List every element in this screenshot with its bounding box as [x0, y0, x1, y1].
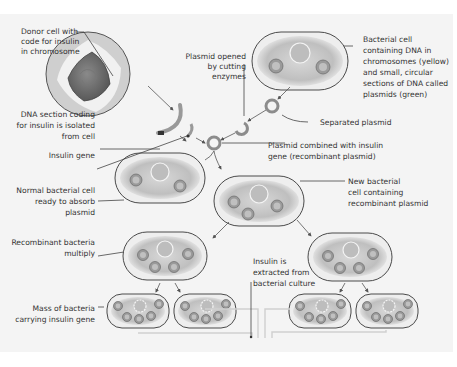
label-new-cell: New bacterialcell containingrecombinant …: [348, 177, 428, 208]
normal-bacterial-cell: [115, 153, 205, 203]
label-recombinant-multiply: Recombinant bacteriamultiply: [11, 238, 95, 258]
svg-text:New bacterialcell containingre: New bacterialcell containingrecombinant …: [348, 177, 428, 208]
label-plasmid-combined: Plasmid combined with insulingene (recom…: [268, 141, 383, 161]
label-donor-cell: Donor cell withcode for insulinin chromo…: [21, 27, 80, 56]
label-bacterial-cell: Bacterial cellcontaining DNA inchromosom…: [363, 35, 449, 99]
dna-section: [158, 105, 181, 133]
svg-text:Insulin gene: Insulin gene: [49, 151, 96, 160]
label-plasmid-opened: Plasmid openedby cuttingenzymes: [186, 52, 247, 81]
opened-plasmid: [236, 123, 247, 134]
svg-text:Insulin isextracted frombacter: Insulin isextracted frombacterial cultur…: [253, 257, 316, 288]
label-insulin-gene: Insulin gene: [49, 151, 96, 160]
svg-text:Separated plasmid: Separated plasmid: [320, 118, 392, 127]
new-bacterial-cell: [214, 176, 304, 226]
bacteria-cell: [174, 294, 236, 328]
svg-text:Normal bacterial cellready to: Normal bacterial cellready to absorbplas…: [16, 186, 95, 217]
insulin-gene: [186, 124, 192, 138]
bacterial-cell-source: [252, 32, 348, 90]
recombinant-plasmid: [208, 137, 220, 149]
bacteria-cell: [107, 294, 169, 328]
insulin-production-diagram: Donor cell withcode for insulinin chromo…: [0, 0, 457, 367]
svg-text:Mass of bacteriacarrying insul: Mass of bacteriacarrying insulin gene: [15, 304, 95, 324]
bacteria-cell: [289, 294, 351, 328]
svg-text:Donor cell withcode for insuli: Donor cell withcode for insulinin chromo…: [21, 27, 80, 56]
label-separated-plasmid: Separated plasmid: [320, 118, 392, 127]
svg-text:Plasmid openedby cuttingenzyme: Plasmid openedby cuttingenzymes: [186, 52, 247, 81]
bacteria-cell: [356, 294, 418, 328]
label-mass-of-bacteria: Mass of bacteriacarrying insulin gene: [15, 304, 95, 324]
recombinant-cell-right: [308, 233, 392, 281]
label-dna-section: DNA section codingfor insulin is isolate…: [17, 110, 96, 141]
svg-text:Bacterial cellcontaining DNA i: Bacterial cellcontaining DNA inchromosom…: [363, 35, 449, 99]
mass-of-bacteria: [107, 294, 418, 328]
svg-text:Recombinant bacteriamultiply: Recombinant bacteriamultiply: [11, 238, 95, 258]
separated-plasmid: [266, 100, 278, 112]
recombinant-cell-left: [123, 232, 207, 280]
label-insulin-extracted: Insulin isextracted frombacterial cultur…: [253, 257, 316, 288]
label-normal-cell: Normal bacterial cellready to absorbplas…: [16, 186, 95, 217]
svg-text:Plasmid combined with insuling: Plasmid combined with insulingene (recom…: [268, 141, 383, 161]
svg-text:DNA section codingfor insulin: DNA section codingfor insulin is isolate…: [17, 110, 96, 141]
